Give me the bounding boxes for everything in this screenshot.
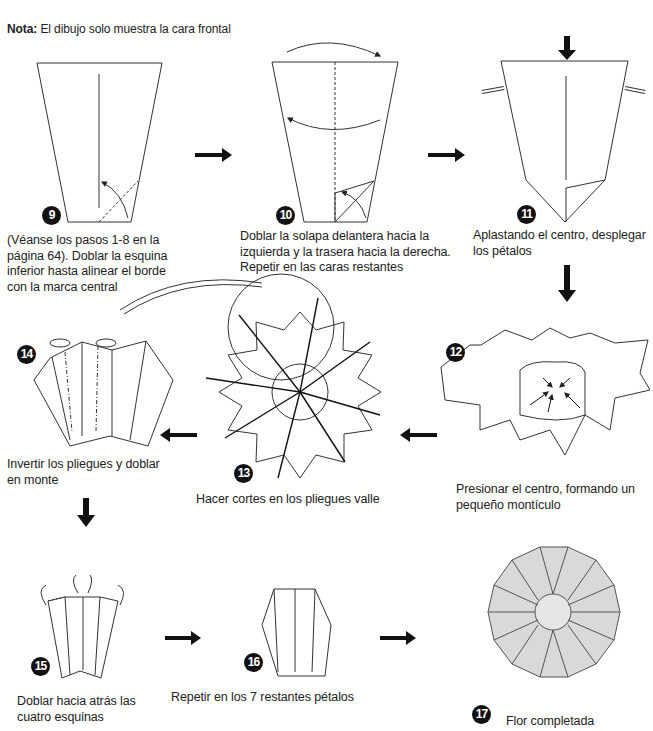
step-13-caption: Hacer cortes en los pliegues valle xyxy=(196,492,380,508)
step-number-badge: 14 xyxy=(17,345,36,364)
step-number-badge: 11 xyxy=(517,205,536,224)
step-11-diagram xyxy=(482,61,645,222)
arrow-down-icon xyxy=(558,36,576,60)
step-number-badge: 17 xyxy=(472,705,491,724)
step-9-caption: (Véanse los pasos 1-8 en lapágina 64). D… xyxy=(7,233,167,295)
step-16-caption: Repetir en los 7 restantes pétalos xyxy=(171,690,354,706)
step-14-diagram xyxy=(34,339,173,446)
step-10-caption: Doblar la solapa delantera hacia laizqui… xyxy=(240,229,451,276)
step-9-diagram xyxy=(37,63,162,222)
arrow-left-icon xyxy=(400,428,437,442)
arrow-right-icon xyxy=(165,631,201,645)
step-15-diagram xyxy=(41,575,124,678)
step-17-caption: Flor completada xyxy=(506,714,594,730)
arrow-left-icon xyxy=(160,428,197,442)
arrow-right-icon xyxy=(428,148,465,162)
arrow-down-icon xyxy=(77,498,95,527)
origami-diagram xyxy=(0,0,653,731)
note-text: Nota: El dibujo solo muestra la cara fro… xyxy=(7,22,231,38)
step-number-badge: 13 xyxy=(234,464,253,483)
step-11-caption: Aplastando el centro, desplegarlos pétal… xyxy=(473,228,646,259)
step-number-badge: 12 xyxy=(446,343,465,362)
arrow-down-icon xyxy=(558,265,576,302)
step-10-diagram xyxy=(272,43,398,222)
arrow-right-icon xyxy=(380,631,416,645)
step-13-diagram xyxy=(206,274,381,478)
step-number-badge: 9 xyxy=(42,206,61,225)
arrow-right-icon xyxy=(195,148,232,162)
step-17-diagram xyxy=(488,547,620,677)
step-15-caption: Doblar hacia atrás lascuatro esquinas xyxy=(17,694,136,725)
step-12-diagram xyxy=(441,328,650,455)
step-number-badge: 16 xyxy=(244,653,263,672)
step-14-caption: Invertir los pliegues y doblaren monte xyxy=(7,457,160,488)
step-number-badge: 10 xyxy=(276,206,295,225)
step-12-caption: Presionar el centro, formando unpequeño … xyxy=(456,482,635,513)
step-number-badge: 15 xyxy=(31,657,50,676)
step-16-diagram xyxy=(262,589,331,676)
